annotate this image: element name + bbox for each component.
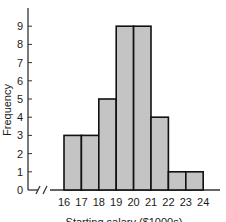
- x-tick-label: 23: [180, 196, 192, 208]
- y-tick-label: 6: [17, 75, 23, 87]
- histogram-chart: 0123456789161718192021222324FrequencySta…: [0, 0, 226, 222]
- y-tick-label: 2: [17, 148, 23, 160]
- histogram-bar: [64, 135, 81, 190]
- x-tick-label: 16: [58, 196, 70, 208]
- y-tick-label: 8: [17, 38, 23, 50]
- y-tick-label: 4: [17, 111, 23, 123]
- x-tick-label: 18: [93, 196, 105, 208]
- histogram-bar: [134, 26, 151, 190]
- y-tick-label: 5: [17, 93, 23, 105]
- histogram-bar: [186, 172, 203, 190]
- x-tick-label: 24: [197, 196, 209, 208]
- x-tick-label: 17: [75, 196, 87, 208]
- y-tick-label: 3: [17, 129, 23, 141]
- histogram-bar: [81, 135, 98, 190]
- y-tick-label: 9: [17, 20, 23, 32]
- x-axis-title: Starting salary ($1000s): [66, 216, 183, 222]
- histogram-bar: [168, 172, 185, 190]
- y-axis-title: Frequency: [1, 84, 13, 136]
- x-tick-label: 19: [110, 196, 122, 208]
- y-tick-label: 7: [17, 57, 23, 69]
- axis-break-mark-2: [43, 186, 47, 194]
- x-tick-label: 20: [127, 196, 139, 208]
- y-tick-label: 0: [17, 184, 23, 196]
- histogram-bar: [99, 99, 116, 190]
- histogram-bar: [116, 26, 133, 190]
- histogram-bar: [151, 117, 168, 190]
- x-tick-label: 22: [162, 196, 174, 208]
- x-tick-label: 21: [145, 196, 157, 208]
- y-tick-label: 1: [17, 166, 23, 178]
